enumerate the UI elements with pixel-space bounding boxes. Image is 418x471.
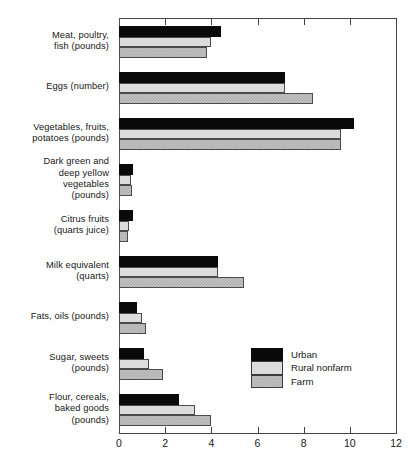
bar-rural [119,221,129,232]
x-tick-bottom [211,427,212,433]
bar-urban [119,72,285,83]
category-label: Sugar, sweets (pounds) [0,352,113,375]
category-label: Flour, cereals, baked goods (pounds) [0,392,113,426]
x-tick-label: 8 [301,437,307,449]
legend-label-farm: Farm [291,375,313,388]
bar-rural [119,83,285,94]
x-tick-bottom [304,427,305,433]
bar-urban [119,348,144,359]
x-tick-top [258,19,259,25]
bar-urban [119,118,354,129]
x-tick-bottom [350,427,351,433]
category-label: Dark green and deep yellow vegetables (p… [0,156,113,202]
bar-urban [119,26,221,37]
legend-label-urban: Urban [291,348,317,361]
bar-urban [119,164,133,175]
x-tick-top [211,19,212,25]
bar-rural [119,405,195,416]
bar-farm [119,139,341,150]
x-tick-top [165,19,166,25]
x-tick-label: 10 [344,437,356,449]
bar-farm [119,231,128,242]
bar-urban [119,302,137,313]
bar-farm [119,47,207,58]
bar-rural [119,129,341,140]
legend-swatch-farm [251,375,283,388]
x-tick-bottom [119,427,120,433]
legend-label-rural-nonfarm: Rural nonfarm [291,361,352,374]
category-label: Eggs (number) [0,81,113,92]
bar-rural [119,313,142,324]
bar-farm [119,185,132,196]
x-tick-bottom [396,427,397,433]
x-tick-top [304,19,305,25]
bar-rural [119,37,211,48]
bar-rural [119,359,149,370]
bar-farm [119,93,313,104]
bar-chart: Meat, poultry, fish (pounds)Eggs (number… [0,0,418,471]
bar-farm [119,415,211,426]
category-label: Meat, poultry, fish (pounds) [0,30,113,53]
x-tick-label: 0 [116,437,122,449]
legend-swatches [251,348,283,388]
bar-rural [119,267,218,278]
category-label: Vegetables, fruits, potatoes (pounds) [0,122,113,145]
legend-swatch-urban [251,348,283,361]
bar-farm [119,277,244,288]
bar-urban [119,256,218,267]
bar-farm [119,369,163,380]
legend-swatch-rural-nonfarm [251,361,283,374]
bar-urban [119,210,133,221]
bar-farm [119,323,146,334]
category-label: Milk equivalent (quarts) [0,260,113,283]
x-tick-label: 2 [162,437,168,449]
x-tick-label: 12 [390,437,402,449]
bar-rural [119,175,131,186]
bar-urban [119,394,179,405]
x-tick-top [350,19,351,25]
x-tick-label: 6 [255,437,261,449]
category-label: Citrus fruits (quarts juice) [0,214,113,237]
x-tick-bottom [258,427,259,433]
category-label: Fats, oils (pounds) [0,311,113,322]
x-tick-label: 4 [208,437,214,449]
x-tick-bottom [165,427,166,433]
